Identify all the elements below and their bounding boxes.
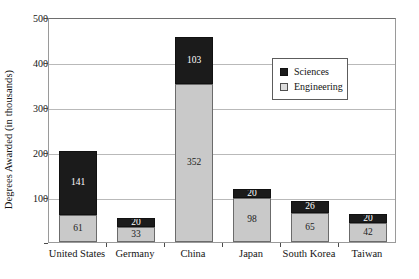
- bar-value-label: 42: [363, 228, 373, 238]
- y-tick-label-500: 500: [6, 13, 48, 24]
- bar-group: 14161: [59, 151, 97, 242]
- bar-group: 2033: [117, 218, 155, 242]
- bar-segment-sciences: 141: [59, 151, 97, 214]
- gridline-100: [49, 199, 395, 200]
- gridline-200: [49, 154, 395, 155]
- plot-area: 141612033103352209826652042: [48, 18, 396, 243]
- x-tick-label: Taiwan: [352, 248, 383, 259]
- bar-value-label: 141: [71, 178, 85, 188]
- legend-label: Sciences: [294, 66, 329, 77]
- bar-value-label: 33: [131, 230, 141, 240]
- legend-swatch-engineering-icon: [280, 83, 288, 91]
- x-tick-mark: [280, 243, 281, 247]
- gridline-300: [49, 109, 395, 110]
- bar-value-label: 20: [247, 189, 257, 198]
- bar-segment-engineering: 352: [175, 84, 213, 242]
- legend-label: Engineering: [294, 81, 343, 92]
- x-tick-label: South Korea: [283, 248, 336, 259]
- bar-segment-sciences: 20: [233, 189, 271, 198]
- bar-segment-engineering: 61: [59, 215, 97, 242]
- bar-group: 2098: [233, 189, 271, 242]
- x-tick-label: China: [180, 248, 205, 259]
- bar-segment-engineering: 33: [117, 227, 155, 242]
- x-tick-mark: [338, 243, 339, 247]
- bar-group: 2042: [349, 214, 387, 242]
- x-tick-label: Japan: [239, 248, 263, 259]
- bar-segment-engineering: 42: [349, 223, 387, 242]
- x-tick-mark: [106, 243, 107, 247]
- bar-segment-sciences: 26: [291, 201, 329, 213]
- bar-group: 2665: [291, 201, 329, 242]
- bar-value-label: 61: [73, 224, 83, 234]
- y-tick-label-300: 300: [6, 103, 48, 114]
- y-tick-label-200: 200: [6, 148, 48, 159]
- x-tick-label: Germany: [115, 248, 154, 259]
- bar-segment-engineering: 65: [291, 213, 329, 242]
- legend-swatch-sciences-icon: [280, 68, 288, 76]
- bar-value-label: 65: [305, 223, 315, 233]
- bar-value-label: 26: [305, 202, 315, 212]
- legend-item-engineering: Engineering: [280, 79, 341, 94]
- bar-value-label: 98: [247, 215, 257, 225]
- x-axis-labels: United StatesGermanyChinaJapanSouth Kore…: [48, 248, 396, 266]
- x-tick-mark: [164, 243, 165, 247]
- x-tick-label: United States: [49, 248, 105, 259]
- legend-item-sciences: Sciences: [280, 64, 341, 79]
- x-tick-mark: [222, 243, 223, 247]
- chart-legend: SciencesEngineering: [272, 58, 348, 100]
- y-tick-label-400: 400: [6, 58, 48, 69]
- stacked-bar-chart: Degrees Awarded (in thousands) 100200300…: [0, 0, 419, 279]
- bar-segment-sciences: 103: [175, 37, 213, 83]
- bar-value-label: 20: [131, 218, 141, 227]
- bar-segment-sciences: 20: [117, 218, 155, 227]
- bar-segment-engineering: 98: [233, 198, 271, 242]
- bar-segment-sciences: 20: [349, 214, 387, 223]
- bar-value-label: 352: [187, 158, 201, 168]
- y-tick-label-100: 100: [6, 193, 48, 204]
- bar-value-label: 20: [363, 214, 373, 223]
- bar-group: 103352: [175, 37, 213, 242]
- y-axis-ticks: 100200300400500: [0, 0, 48, 279]
- bar-value-label: 103: [187, 56, 201, 66]
